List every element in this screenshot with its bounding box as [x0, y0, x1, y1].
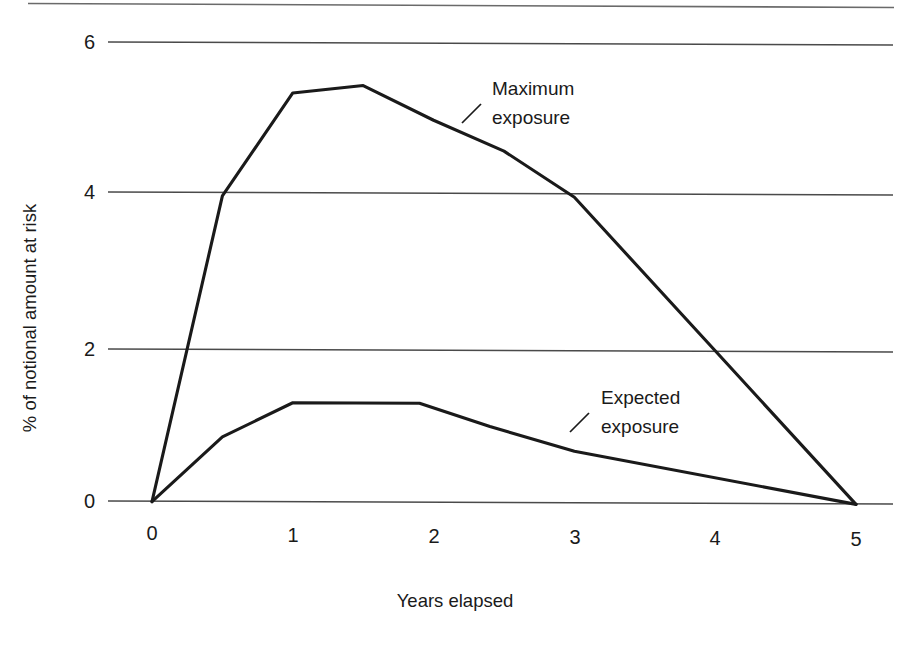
annotation-expected-line2: exposure [601, 416, 679, 437]
y-tick-label-0: 0 [84, 490, 95, 512]
y-tick-label-2: 2 [84, 338, 95, 360]
x-tick-label-1: 1 [287, 524, 298, 546]
chart-background [0, 0, 922, 645]
x-tick-label-0: 0 [146, 522, 157, 544]
y-tick-label-6: 6 [84, 31, 95, 53]
annotation-maximum-line1: Maximum [492, 78, 574, 99]
x-tick-label-3: 3 [569, 526, 580, 548]
exposure-profile-chart: 6 4 2 0 0 1 2 3 4 5 Years elapsed % of n… [0, 0, 922, 645]
chart-figure: 6 4 2 0 0 1 2 3 4 5 Years elapsed % of n… [0, 0, 922, 645]
annotation-expected-line1: Expected [601, 387, 680, 408]
y-tick-label-4: 4 [84, 181, 95, 203]
x-axis-title: Years elapsed [397, 590, 514, 611]
y-axis-title: % of notional amount at risk [19, 203, 40, 432]
annotation-maximum-line2: exposure [492, 107, 570, 128]
x-tick-label-2: 2 [428, 525, 439, 547]
x-tick-label-5: 5 [850, 528, 861, 550]
x-tick-label-4: 4 [709, 527, 720, 549]
